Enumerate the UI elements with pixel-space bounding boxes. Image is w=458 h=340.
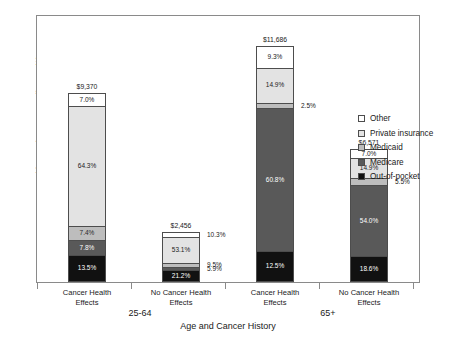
x-category-label-1: No Cancer HealthEffects	[135, 288, 227, 308]
x-category-label-line1: Cancer Health	[229, 288, 321, 298]
segment-private-insurance[interactable]: 64.3%	[69, 107, 105, 227]
segment-value-label: 64.3%	[78, 163, 96, 170]
bar-total-label: $11,686	[263, 36, 287, 43]
x-category-label-line1: No Cancer Health	[323, 288, 415, 298]
legend-swatch-icon	[358, 130, 365, 137]
segment-value-label: 21.2%	[172, 273, 190, 280]
x-category-label-line2: Effects	[323, 298, 415, 308]
segment-out-of-pocket[interactable]: 18.6%	[351, 257, 387, 281]
segment-value-label: 10.3%	[207, 232, 225, 239]
segment-value-label: 14.9%	[266, 82, 284, 89]
segment-private-insurance[interactable]: 53.1%	[163, 238, 199, 263]
segment-value-label: 12.5%	[266, 263, 284, 270]
legend-swatch-icon	[358, 159, 365, 166]
bar-total-label: $9,370	[77, 83, 98, 90]
segment-value-label: 2.5%	[301, 103, 316, 110]
legend-item-medicare[interactable]: Medicare	[358, 158, 433, 167]
legend-label: Other	[370, 114, 390, 123]
segment-value-label: 9.5%	[207, 262, 222, 269]
x-category-label-line2: Effects	[135, 298, 227, 308]
segment-out-of-pocket[interactable]: 13.5%	[69, 256, 105, 281]
legend-swatch-icon	[358, 173, 365, 180]
legend-item-private-insurance[interactable]: Private insurance	[358, 129, 433, 138]
bar-group-0: 7.0%64.3%7.4%7.8%13.5%$9,370	[43, 16, 131, 282]
segment-value-label: 5.9%	[207, 266, 222, 273]
segment-medicare[interactable]: 7.8%	[69, 241, 105, 256]
x-category-label-line2: Effects	[41, 298, 133, 308]
bar-total-label: $2,456	[171, 222, 192, 229]
segment-value-label: 7.8%	[80, 245, 95, 252]
segment-other[interactable]: 9.3%	[257, 47, 293, 69]
segment-medicare[interactable]: 54.0%	[351, 186, 387, 257]
group-label-25-64: 25-64	[80, 308, 200, 318]
legend-swatch-icon	[358, 115, 365, 122]
stacked-bar[interactable]: 9.3%14.9%2.5%60.8%12.5%	[256, 46, 294, 282]
legend-swatch-icon	[358, 144, 365, 151]
bar-group-2: 9.3%14.9%2.5%60.8%12.5%$11,686	[231, 16, 319, 282]
x-category-label-0: Cancer HealthEffects	[41, 288, 133, 308]
segment-medicare[interactable]: 60.8%	[257, 109, 293, 251]
x-category-label-2: Cancer HealthEffects	[229, 288, 321, 308]
legend-item-other[interactable]: Other	[358, 114, 433, 123]
x-axis-title: Age and Cancer History	[36, 321, 420, 331]
legend-label: Out-of-pocket	[370, 172, 420, 181]
stacked-bar[interactable]: 10.3%53.1%9.5%5.9%21.2%	[162, 232, 200, 282]
x-category-label-line1: Cancer Health	[41, 288, 133, 298]
segment-out-of-pocket[interactable]: 21.2%	[163, 271, 199, 281]
segment-value-label: 18.6%	[360, 266, 378, 273]
x-category-label-line2: Effects	[229, 298, 321, 308]
segment-value-label: 60.8%	[266, 177, 284, 184]
segment-value-label: 9.3%	[268, 54, 283, 61]
x-axis-tick-0	[37, 283, 38, 289]
segment-value-label: 53.1%	[172, 247, 190, 254]
group-label-65plus: 65+	[268, 308, 388, 318]
segment-value-label: 7.0%	[80, 97, 95, 104]
x-category-label-line1: No Cancer Health	[135, 288, 227, 298]
segment-medicaid[interactable]: 7.4%	[69, 227, 105, 241]
segment-private-insurance[interactable]: 14.9%	[257, 69, 293, 104]
stacked-bar[interactable]: 7.0%64.3%7.4%7.8%13.5%	[68, 93, 106, 282]
legend-label: Private insurance	[370, 129, 433, 138]
legend-item-out-of-pocket[interactable]: Out-of-pocket	[358, 172, 433, 181]
legend-label: Medicare	[370, 158, 404, 167]
legend-label: Medicaid	[370, 143, 403, 152]
segment-value-label: 7.4%	[80, 230, 95, 237]
bar-group-1: 10.3%53.1%9.5%5.9%21.2%$2,456	[137, 16, 225, 282]
segment-value-label: 13.5%	[78, 265, 96, 272]
segment-other[interactable]: 7.0%	[69, 94, 105, 107]
segment-out-of-pocket[interactable]: 12.5%	[257, 252, 293, 281]
legend: OtherPrivate insuranceMedicaidMedicareOu…	[358, 114, 433, 181]
legend-item-medicaid[interactable]: Medicaid	[358, 143, 433, 152]
x-category-label-3: No Cancer HealthEffects	[323, 288, 415, 308]
segment-value-label: 54.0%	[360, 218, 378, 225]
